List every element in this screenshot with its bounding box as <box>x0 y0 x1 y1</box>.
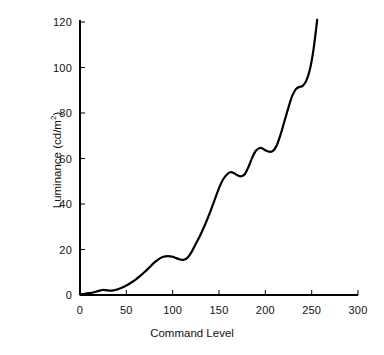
x-axis-tick-label: 200 <box>256 304 275 316</box>
axis-lines <box>80 20 358 295</box>
x-axis-tick-label: 0 <box>77 304 83 316</box>
y-axis-tick-label: 20 <box>38 244 72 256</box>
x-axis-tick-label: 300 <box>349 304 368 316</box>
y-axis-label-close: ) <box>51 112 63 116</box>
x-axis-tick-label: 50 <box>120 304 133 316</box>
y-axis-label-exponent: 2 <box>49 116 58 120</box>
x-axis-label: Command Level <box>150 327 234 339</box>
x-axis-tick-label: 250 <box>302 304 321 316</box>
luminance-vs-command-level-chart: 020406080100120 050100150200250300 Lumin… <box>0 0 384 355</box>
y-axis-tick-label: 100 <box>38 62 72 74</box>
x-axis-tick-label: 150 <box>210 304 229 316</box>
x-axis-tick-label: 100 <box>163 304 182 316</box>
y-axis-label-base: Luminance (cd/m <box>51 120 63 208</box>
y-axis-tick-label: 120 <box>38 16 72 28</box>
x-axis-label-wrap: Command Level <box>0 327 384 339</box>
y-axis-label: Luminance (cd/m2) <box>49 112 63 209</box>
y-axis-tick-label: 0 <box>38 289 72 301</box>
luminance-curve <box>80 20 317 295</box>
